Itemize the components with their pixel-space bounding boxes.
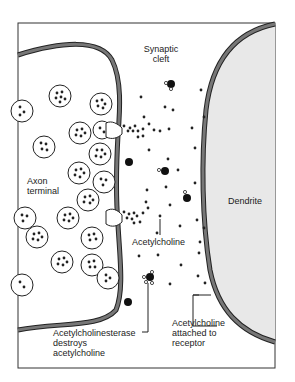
enzyme-line-3: acetylcholine: [53, 348, 136, 358]
receptor-label: Acetylcholine attached to receptor: [172, 318, 225, 348]
dendrite-label: Dendrite: [228, 196, 262, 206]
enzyme-line-1: Acetylcholinesterase: [53, 328, 136, 338]
receptor-line-3: receptor: [172, 338, 225, 348]
synaptic-cleft-label: Synaptic cleft: [141, 44, 181, 64]
acetylcholinesterase-label: Acetylcholinesterase destroys acetylchol…: [53, 328, 136, 358]
synaptic-cleft-line-1: Synaptic: [141, 44, 181, 54]
receptor-line-1: Acetylcholine: [172, 318, 225, 328]
axon-line-1: Axon: [27, 176, 59, 186]
axon-terminal-label: Axon terminal: [27, 176, 59, 196]
enzyme-line-2: destroys: [53, 338, 136, 348]
acetylcholine-label: Acetylcholine: [132, 237, 185, 247]
receptor-line-2: attached to: [172, 328, 225, 338]
axon-line-2: terminal: [27, 186, 59, 196]
synaptic-cleft-line-2: cleft: [141, 54, 181, 64]
